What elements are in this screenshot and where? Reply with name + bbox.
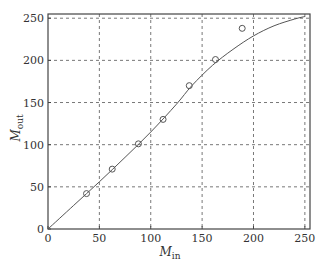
data-point-marker [212, 57, 218, 63]
x-tick-labels: 050100150200250 [45, 232, 316, 245]
x-tick-label: 150 [192, 232, 213, 245]
y-tick-label: 0 [37, 223, 44, 236]
x-tick-label: 100 [140, 232, 161, 245]
x-tick-label: 50 [92, 232, 106, 245]
fit-curve-path [48, 17, 305, 229]
y-tick-label: 150 [23, 97, 44, 110]
y-tick-labels: 050100150200250 [23, 12, 44, 236]
fit-curve [48, 17, 305, 229]
y-tick-label: 200 [23, 54, 44, 67]
x-tick-label: 0 [45, 232, 52, 245]
y-tick-label: 100 [23, 139, 44, 152]
y-tick-label: 250 [23, 12, 44, 25]
y-tick-label: 50 [30, 181, 44, 194]
x-tick-label: 200 [243, 232, 264, 245]
data-markers [84, 25, 246, 196]
data-point-marker [239, 25, 245, 31]
y-axis-label: Mout [9, 114, 25, 143]
x-axis-label: Min [159, 245, 181, 261]
x-tick-label: 250 [294, 232, 315, 245]
chart: 050100150200250 050100150200250 Min Mout [0, 0, 331, 267]
